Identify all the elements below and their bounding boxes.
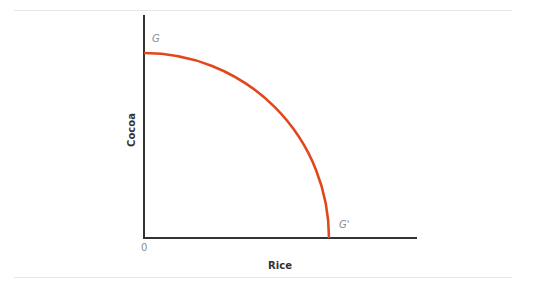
point-g-prime-label: G'	[339, 219, 350, 230]
x-axis-label: Rice	[268, 260, 292, 271]
origin-label: 0	[141, 242, 147, 253]
ppf-curve	[144, 53, 329, 238]
ppf-chart: G G' 0 Rice Cocoa	[0, 0, 540, 291]
y-axis-label: Cocoa	[126, 113, 137, 147]
point-g-label: G	[152, 33, 160, 44]
